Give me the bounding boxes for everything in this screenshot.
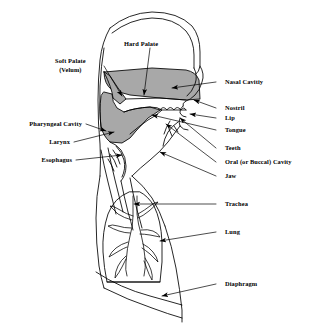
trachea [121, 181, 133, 230]
label-diaphragm: Diaphragm [225, 280, 257, 289]
leader-esophagus [76, 155, 122, 160]
vocal-tract-diagram: Hard Palate Soft Palate (Velum) Nasal Ca… [0, 0, 310, 329]
label-nostril: Nostril [225, 104, 245, 113]
label-jaw: Jaw [225, 172, 236, 181]
torso-outline [96, 176, 182, 322]
diaphragm [96, 272, 182, 318]
label-nasal-cavity: Nasal Cavitiy [225, 78, 263, 87]
lung-outline [103, 192, 162, 282]
pharyngeal-cavity-shaded [100, 92, 160, 143]
jaw-contour [132, 126, 180, 176]
label-oral-cavity: Oral (or Buccal) Cavity [225, 158, 292, 167]
label-trachea: Trachea [225, 200, 248, 209]
leader-lip [190, 114, 216, 118]
lower-lip [179, 118, 188, 130]
label-lung: Lung [225, 228, 240, 237]
leader-diaphragm [162, 284, 216, 296]
label-hard-palate: Hard Palate [124, 40, 158, 49]
label-teeth: Teeth [225, 144, 241, 153]
bronchial-tree [108, 196, 160, 280]
teeth [160, 108, 186, 111]
label-soft-palate-line1: Soft Palate [55, 57, 86, 66]
leader-nostril [194, 100, 216, 108]
label-soft-palate-line2: (Velum) [55, 66, 86, 75]
label-soft-palate: Soft Palate (Velum) [55, 57, 86, 74]
label-pharyngeal-cavity: Pharyngeal Cavity [8, 120, 82, 129]
leader-oral-cavity [166, 124, 216, 162]
upper-lip [180, 106, 186, 117]
label-larynx: Larynx [8, 138, 70, 147]
leader-teeth [180, 118, 216, 148]
shaded-cavities [100, 68, 200, 143]
label-tongue: Tongue [225, 126, 246, 135]
lower-jaw [163, 121, 178, 146]
lung [103, 192, 162, 282]
leader-tongue [152, 115, 216, 130]
label-esophagus: Esophagus [8, 156, 72, 165]
label-lip: Lip [225, 114, 235, 123]
